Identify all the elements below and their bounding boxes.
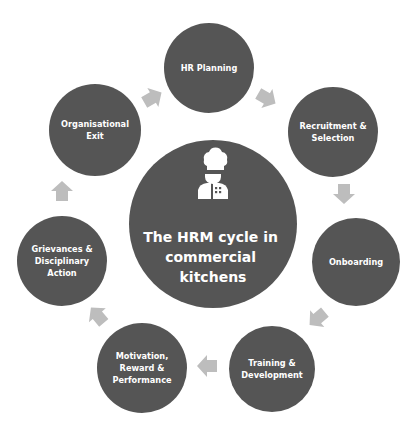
stage-node-hr-planning: HR Planning <box>164 23 254 113</box>
stage-label: Onboarding <box>329 257 383 267</box>
stage-node-onboarding: Onboarding <box>312 218 400 306</box>
stage-label-line: Motivation, <box>116 351 169 361</box>
stage-label-line: Disciplinary <box>35 256 90 266</box>
stage-label-line: Organisational <box>61 119 129 129</box>
flow-arrow-icon <box>197 355 217 377</box>
stage-label-line: Exit <box>86 131 104 141</box>
stage-label-line: Recruitment & <box>299 121 366 131</box>
stage-label-line: Action <box>47 268 77 278</box>
stage-label-line: Performance <box>112 375 172 385</box>
stage-circle <box>229 326 315 412</box>
stage-label-line: Selection <box>312 133 355 143</box>
flow-arrow-icon <box>253 84 281 113</box>
flow-arrow-icon <box>303 304 332 334</box>
stage-label: Motivation,Reward &Performance <box>112 351 172 385</box>
center-node: The HRM cycle in commercial kitchens <box>129 140 297 308</box>
stage-circle <box>288 87 378 177</box>
center-label-line: The HRM cycle in <box>143 229 278 245</box>
stage-label-line: Onboarding <box>329 257 383 267</box>
stage-node-grievances-disciplinary-action: Grievances &DisciplinaryAction <box>17 216 107 306</box>
stage-node-recruitment-selection: Recruitment &Selection <box>288 87 378 177</box>
stage-node-training-development: Training &Development <box>229 326 315 412</box>
center-label-line: commercial <box>165 249 256 265</box>
stage-label-line: Training & <box>248 358 295 368</box>
flow-arrow-icon <box>51 181 73 201</box>
flow-arrow-icon <box>139 83 167 112</box>
flow-arrow-icon <box>83 301 113 330</box>
hrm-cycle-diagram: HR PlanningRecruitment &SelectionOnboard… <box>0 0 414 429</box>
stage-label-line: Development <box>241 370 302 380</box>
stage-circle <box>49 84 141 176</box>
stage-node-organisational-exit: OrganisationalExit <box>49 84 141 176</box>
stage-node-motivation-reward-performance: Motivation,Reward &Performance <box>97 323 187 413</box>
stage-label-line: HR Planning <box>181 63 238 73</box>
stage-label-line: Reward & <box>120 363 165 373</box>
center-label-line: kitchens <box>180 269 247 285</box>
flow-arrow-icon <box>333 184 355 204</box>
stage-label-line: Grievances & <box>31 244 92 254</box>
stage-label: HR Planning <box>181 63 238 73</box>
